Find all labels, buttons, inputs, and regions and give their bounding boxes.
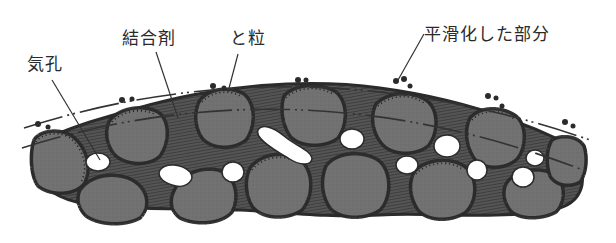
- label-pore: 気孔: [27, 56, 63, 73]
- pore: [467, 160, 487, 180]
- leader-smoothed: [398, 34, 424, 80]
- grain: [323, 154, 389, 218]
- pore: [434, 135, 460, 157]
- label-smoothed: 平滑化した部分: [424, 26, 550, 43]
- label-bond: 結合剤: [122, 30, 176, 47]
- leader-grain: [228, 54, 238, 92]
- pore: [526, 150, 544, 166]
- grain: [78, 175, 147, 223]
- pore: [512, 167, 534, 187]
- label-grain: と粒: [230, 30, 266, 47]
- grain: [282, 86, 345, 146]
- grain: [411, 160, 475, 219]
- pore: [396, 156, 418, 174]
- pore: [222, 162, 244, 182]
- grain: [196, 89, 254, 147]
- grain: [547, 137, 586, 186]
- grain: [373, 94, 436, 154]
- pore: [340, 129, 364, 149]
